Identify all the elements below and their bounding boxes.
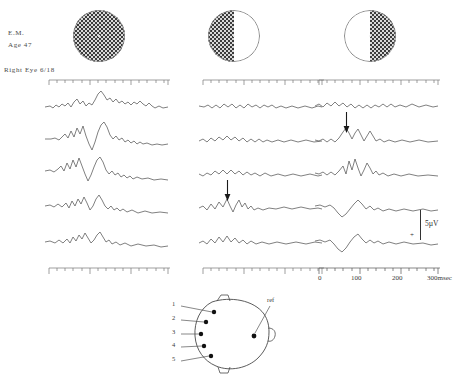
- time-label-300: 300msec: [427, 274, 452, 282]
- trace-stack: [196, 86, 331, 256]
- electrode-label-4: 4: [172, 341, 175, 348]
- trace-channel-5: [196, 222, 331, 256]
- trace-channel-3: [42, 154, 177, 188]
- electrode-montage-diagram: 1 2 3 4 5 ref: [168, 292, 298, 380]
- leader-line-ref: [255, 306, 270, 333]
- trace-channel-3: [196, 154, 331, 188]
- top-tick-axis: [202, 72, 325, 82]
- trace-channel-1: [196, 86, 331, 120]
- recording-column-right-half-field: 0 100 200 300msec: [312, 0, 447, 290]
- time-axis-labels: 0 100 200 300msec: [318, 274, 453, 286]
- time-label-100: 100: [351, 274, 362, 282]
- calibration-label: 5µV: [425, 219, 439, 228]
- bottom-tick-axis: [202, 262, 325, 272]
- electrode-label-2: 2: [172, 314, 175, 321]
- peak-marker-arrow-icon: [342, 112, 351, 134]
- electrode-label-5: 5: [172, 355, 175, 362]
- recording-column-full-field: [42, 0, 177, 290]
- peak-marker-arrow-icon: [223, 180, 232, 202]
- trace-channel-2: [42, 120, 177, 154]
- recording-column-left-half-field: [196, 0, 331, 290]
- electrode-label-1: 1: [172, 300, 175, 307]
- head-outline: [195, 299, 269, 369]
- trace-channel-5: [42, 222, 177, 256]
- trace-channel-3: [312, 154, 447, 188]
- time-tick-axis: [318, 262, 441, 272]
- bottom-tick-axis: [48, 262, 171, 272]
- leader-line-4: [181, 346, 202, 347]
- trace-channel-1: [312, 86, 447, 120]
- electrode-dot-1: [212, 310, 216, 314]
- electrode-dot-4: [202, 344, 206, 348]
- reference-electrode-label: ref: [267, 296, 274, 303]
- trace-stack: [42, 86, 177, 256]
- electrode-label-3: 3: [172, 328, 175, 335]
- electrode-dot-3: [199, 332, 203, 336]
- time-label-200: 200: [392, 274, 403, 282]
- amplitude-calibration: 5µV +: [414, 210, 448, 246]
- calibration-bar: [420, 210, 421, 240]
- polarity-marker: +: [410, 231, 414, 239]
- electrode-dot-ref: [252, 334, 257, 339]
- patient-age: Age 47: [8, 41, 32, 49]
- electrode-dot-5: [209, 354, 213, 358]
- leader-line-1: [181, 306, 212, 312]
- trace-channel-2: [196, 120, 331, 154]
- trace-channel-1: [42, 86, 177, 120]
- top-tick-axis: [48, 72, 171, 82]
- trace-channel-2: [312, 120, 447, 154]
- trace-channel-4: [42, 188, 177, 222]
- time-label-0: 0: [318, 274, 322, 282]
- leader-line-2: [181, 320, 204, 322]
- top-tick-axis: [318, 72, 441, 82]
- patient-name: E.M.: [8, 29, 24, 37]
- trace-channel-4: [196, 188, 331, 222]
- electrode-dot-2: [204, 320, 208, 324]
